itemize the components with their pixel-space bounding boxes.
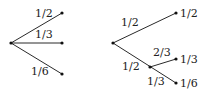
right-leaf-node [174, 81, 177, 84]
left-leaf-node [60, 11, 63, 14]
left-edge-label-top: 1/2 [35, 7, 53, 20]
right-leaf-node [174, 57, 177, 60]
left-edge-label-bottom: 1/6 [31, 65, 49, 78]
probability-tree-diagram: 1/2 1/3 1/6 1/2 1/2 2/3 1/3 1/2 1/3 1/6 [0, 0, 209, 94]
right-edge-label-upper: 1/2 [121, 16, 139, 29]
left-root-node [9, 41, 12, 44]
left-leaf-node [60, 41, 63, 44]
right-leaf-node [174, 11, 177, 14]
right-root-node [111, 41, 114, 44]
right-leaf-label-middle: 1/3 [180, 53, 198, 66]
left-tree: 1/2 1/3 1/6 [9, 7, 63, 78]
left-leaf-node [60, 72, 63, 75]
right-tree: 1/2 1/2 2/3 1/3 1/2 1/3 1/6 [111, 7, 197, 90]
right-edge-label-inner-upper: 2/3 [153, 46, 171, 59]
right-leaf-label-bottom: 1/6 [180, 77, 198, 90]
right-edge-inner-upper [150, 59, 176, 67]
right-leaf-label-top: 1/2 [180, 7, 198, 20]
right-edge-label-lower: 1/2 [122, 60, 140, 73]
left-edge-label-middle: 1/3 [35, 28, 53, 41]
right-inner-node [148, 65, 151, 68]
right-edge-label-inner-lower: 1/3 [147, 75, 165, 88]
